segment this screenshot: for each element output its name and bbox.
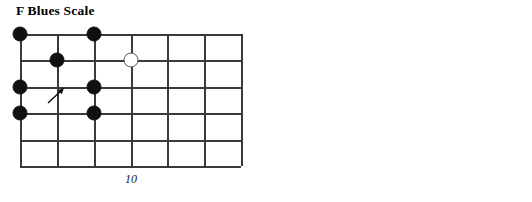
string-line xyxy=(20,166,241,168)
fret-line xyxy=(241,34,243,166)
root-note-arrow-icon xyxy=(46,86,68,106)
fret-line xyxy=(20,34,22,166)
fretboard-grid xyxy=(20,34,241,166)
filled-note-marker xyxy=(86,27,101,42)
filled-note-marker xyxy=(86,79,101,94)
fretboard-diagram-f-blues-scale: F Blues Scale 10 xyxy=(0,0,266,202)
filled-note-marker xyxy=(13,79,28,94)
fretboard-diagram-f-major-scale: F Major Scale 10 xyxy=(266,0,532,202)
fret-line xyxy=(204,34,206,166)
filled-note-marker xyxy=(86,106,101,121)
diagram-title: F Blues Scale xyxy=(16,3,95,19)
fret-line xyxy=(94,34,96,166)
fret-line xyxy=(167,34,169,166)
open-note-marker xyxy=(123,53,138,68)
filled-note-marker xyxy=(49,53,64,68)
filled-note-marker xyxy=(13,27,28,42)
fret-position-label: 10 xyxy=(125,172,137,187)
filled-note-marker xyxy=(13,106,28,121)
